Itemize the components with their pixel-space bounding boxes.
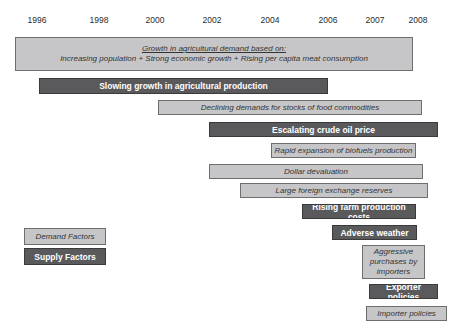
legend-supply-factors: Supply Factors: [24, 248, 106, 265]
year-label: 2002: [203, 15, 222, 25]
bar-aggressive-purchases: Aggressive purchases by importers: [362, 245, 425, 279]
bar-foreign-reserves: Large foreign exchange reserves: [240, 183, 428, 198]
year-label: 2008: [409, 15, 428, 25]
bar-farm-costs: Rising farm production costs: [302, 204, 416, 219]
bar-importer-policies: Importer policies: [366, 306, 447, 321]
legend-demand-factors: Demand Factors: [24, 228, 106, 245]
year-label: 2007: [366, 15, 385, 25]
year-label: 1998: [90, 15, 109, 25]
bar-declining-stocks: Declining demands for stocks of food com…: [158, 100, 422, 115]
bar-dollar-devaluation: Dollar devaluation: [209, 164, 423, 179]
growth-demand-bar: Growth in agricultural demand based on: …: [15, 37, 413, 71]
year-label: 2006: [319, 15, 338, 25]
bar-biofuels: Rapid expansion of biofuels production: [271, 143, 416, 158]
year-label: 2004: [261, 15, 280, 25]
growth-demand-title: Growth in agricultural demand based on:: [142, 44, 286, 54]
year-label: 2000: [146, 15, 165, 25]
bar-exporter-policies: Exporter policies: [369, 284, 438, 299]
year-label: 1996: [28, 15, 47, 25]
bar-crude-oil: Escalating crude oil price: [209, 122, 438, 137]
bar-adverse-weather: Adverse weather: [332, 225, 417, 240]
growth-demand-subtitle: Increasing population + Strong economic …: [60, 54, 368, 64]
bar-slowing-growth: Slowing growth in agricultural productio…: [39, 78, 328, 94]
